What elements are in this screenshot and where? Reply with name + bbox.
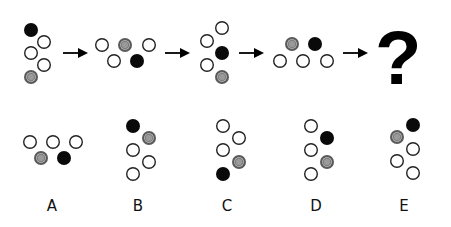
option-e[interactable]: E (390, 118, 420, 215)
arrow-right-icon (343, 48, 368, 58)
option-label: E (399, 197, 408, 215)
white-circle-icon (96, 39, 109, 52)
black-circle-icon (406, 118, 420, 132)
white-circle-icon (38, 59, 51, 72)
arrow-right-icon (239, 48, 264, 58)
white-circle-icon (305, 168, 318, 181)
question-mark: ? (375, 15, 421, 100)
sequence-figure-1 (24, 23, 50, 84)
black-circle-icon (24, 23, 38, 37)
white-circle-icon (274, 55, 287, 68)
black-circle-icon (57, 151, 71, 165)
black-circle-icon (308, 37, 322, 51)
option-d[interactable]: D (305, 120, 334, 215)
white-circle-icon (321, 55, 334, 68)
black-circle-icon (216, 167, 230, 181)
sequence-figure-4 (274, 37, 334, 67)
white-circle-icon (201, 59, 214, 72)
gray-circle-icon (232, 155, 246, 169)
white-circle-icon (217, 120, 230, 133)
gray-circle-icon (215, 70, 229, 84)
white-circle-icon (24, 136, 37, 149)
sequence-figure-3 (201, 22, 229, 84)
white-circle-icon (47, 136, 60, 149)
gray-circle-icon (390, 130, 404, 144)
gray-circle-icon (142, 131, 156, 145)
white-circle-icon (25, 47, 38, 60)
white-circle-icon (143, 39, 156, 52)
white-circle-icon (127, 144, 140, 157)
black-circle-icon (320, 131, 334, 145)
option-label: C (222, 197, 232, 215)
gray-circle-icon (34, 151, 48, 165)
option-label: A (47, 197, 58, 215)
white-circle-icon (297, 55, 310, 68)
white-circle-icon (233, 132, 246, 145)
white-circle-icon (305, 144, 318, 157)
arrow-right-icon (63, 48, 88, 58)
white-circle-icon (201, 35, 214, 48)
black-circle-icon (126, 119, 140, 133)
white-circle-icon (127, 168, 140, 181)
white-circle-icon (108, 55, 121, 68)
white-circle-icon (407, 143, 420, 156)
option-a[interactable]: A (24, 136, 83, 215)
option-c[interactable]: C (216, 120, 246, 215)
black-circle-icon (215, 46, 229, 60)
white-circle-icon (143, 156, 156, 169)
option-b[interactable]: B (126, 119, 156, 215)
arrow-right-icon (165, 48, 190, 58)
white-circle-icon (391, 155, 404, 168)
white-circle-icon (407, 167, 420, 180)
white-circle-icon (305, 120, 318, 133)
option-label: B (133, 197, 143, 215)
answer-options: ABCDE (24, 118, 420, 215)
white-circle-icon (216, 22, 229, 35)
gray-circle-icon (320, 155, 334, 169)
gray-circle-icon (118, 38, 132, 52)
white-circle-icon (38, 36, 51, 49)
sequence-figure-2 (96, 38, 156, 68)
black-circle-icon (130, 54, 144, 68)
gray-circle-icon (24, 70, 38, 84)
gray-circle-icon (285, 37, 299, 51)
white-circle-icon (217, 144, 230, 157)
white-circle-icon (70, 136, 83, 149)
option-label: D (310, 197, 322, 215)
puzzle-canvas: ? ABCDE (0, 0, 451, 227)
